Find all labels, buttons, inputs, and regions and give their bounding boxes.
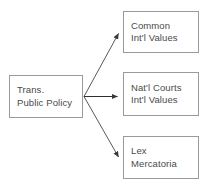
node-label-line1: Nat'l Courts	[131, 82, 198, 95]
node-label-line2: Int'l Values	[131, 32, 198, 45]
node-label-line2: Public Policy	[17, 97, 82, 110]
node-lex-mercatoria[interactable]: Lex Mercatoria	[123, 136, 199, 179]
node-label-line2: Mercatoria	[131, 158, 198, 171]
node-common-intl-values[interactable]: Common Int'l Values	[123, 11, 199, 53]
node-trans-public-policy[interactable]: Trans. Public Policy	[9, 75, 83, 118]
node-label-line2: Int'l Values	[131, 94, 198, 107]
diagram-canvas: Trans. Public Policy Common Int'l Values…	[0, 0, 208, 187]
node-label-line1: Common	[131, 20, 198, 33]
edge-to-common	[84, 34, 119, 97]
node-natl-courts-intl-values[interactable]: Nat'l Courts Int'l Values	[123, 72, 199, 116]
node-label-line1: Lex	[131, 145, 198, 158]
node-label-line1: Trans.	[17, 84, 82, 97]
edge-to-lex	[84, 97, 119, 158]
